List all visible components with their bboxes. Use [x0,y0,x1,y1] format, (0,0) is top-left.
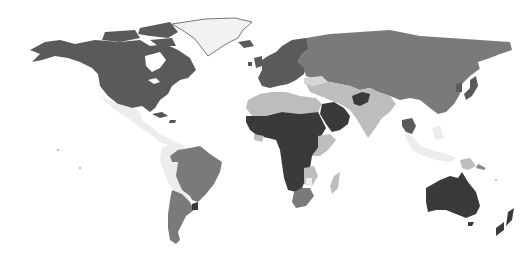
world-choropleth-map [0,0,531,258]
pacific-island-dot [495,179,497,181]
pacific-island-dot [57,149,59,151]
pacific-island-dot [79,167,81,169]
